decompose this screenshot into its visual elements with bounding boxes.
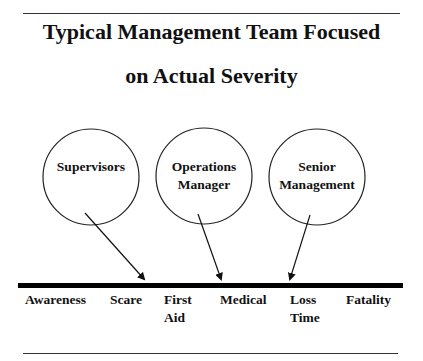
circle-label-operations-manager: Operations Manager xyxy=(156,158,252,194)
scale-label-loss-time: Loss Time xyxy=(290,291,320,327)
scale-label-awareness: Awareness xyxy=(25,291,86,309)
arrow-supervisors xyxy=(85,213,144,279)
scale-label-first-aid: First Aid xyxy=(164,291,192,327)
severity-scale-bar xyxy=(18,283,403,288)
bottom-rule xyxy=(23,353,398,354)
scale-label-scare: Scare xyxy=(110,291,142,309)
circle-label-supervisors: Supervisors xyxy=(43,158,139,176)
circle-supervisors xyxy=(43,129,139,225)
circle-label-senior-management: Senior Management xyxy=(269,158,365,194)
scale-label-medical: Medical xyxy=(220,291,267,309)
arrow-senior-management xyxy=(290,215,310,279)
scale-label-fatality: Fatality xyxy=(346,291,391,309)
